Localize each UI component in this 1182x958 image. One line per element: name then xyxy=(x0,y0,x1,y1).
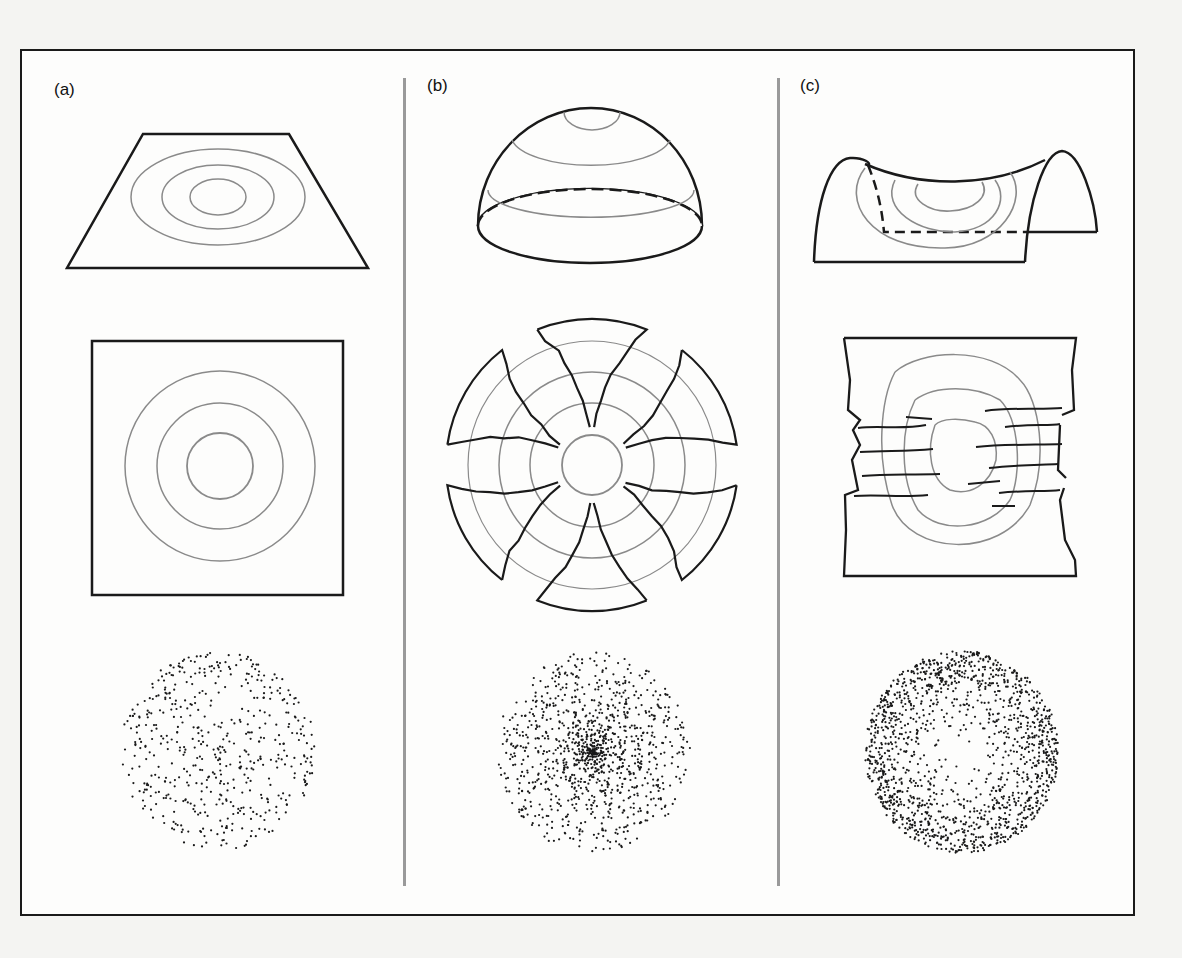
dome-surface xyxy=(478,108,702,263)
saddle-surface xyxy=(814,151,1097,262)
diagram-artwork xyxy=(0,0,1182,958)
uniform-dot-distribution xyxy=(122,652,316,849)
rim-dense-dot-distribution xyxy=(864,650,1058,853)
center-dense-dot-distribution xyxy=(498,652,691,853)
saddle-flattened-folded xyxy=(844,338,1076,576)
flat-surface-map xyxy=(92,341,343,595)
flat-surface-perspective xyxy=(67,134,368,268)
dome-flattened-torn xyxy=(447,319,736,611)
